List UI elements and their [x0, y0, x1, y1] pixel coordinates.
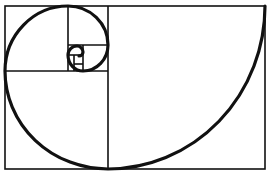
golden-spiral-curve [5, 6, 265, 169]
golden-spiral-diagram [0, 0, 269, 181]
golden-spiral-figure [0, 0, 269, 181]
subdivision-squares [5, 6, 265, 169]
outer-golden-rectangle [5, 6, 265, 169]
